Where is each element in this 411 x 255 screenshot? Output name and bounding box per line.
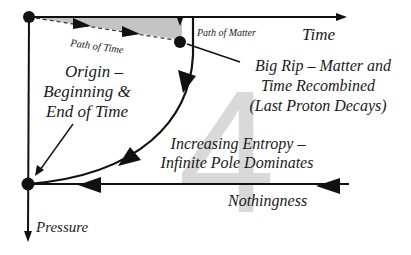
nothingness-arrow-1-icon xyxy=(78,177,101,193)
origin-point xyxy=(22,178,35,191)
cosmology-diagram: 4 Time Pressure Path of Time Path of Mat… xyxy=(0,0,411,255)
path-of-matter-label: Path of Matter xyxy=(196,27,256,38)
pressure-axis xyxy=(28,17,29,234)
origin-pointer-line xyxy=(40,124,73,170)
big-rip-label-line-2: Time Recombined xyxy=(261,77,376,94)
big-rip-point xyxy=(174,36,186,48)
path-of-time-label: Path of Time xyxy=(69,37,125,56)
big-rip-label-line-1: Big Rip – Matter and xyxy=(255,57,392,75)
pressure-axis-arrowhead-icon xyxy=(24,231,32,242)
big-rip-label-line-3: (Last Proton Decays) xyxy=(249,97,386,115)
time-axis-arrowhead-icon xyxy=(336,13,347,21)
origin-label-line-3: End of Time xyxy=(45,102,129,121)
nothingness-arrow-2-icon xyxy=(316,178,340,194)
pressure-axis-label: Pressure xyxy=(35,219,89,235)
origin-label-line-2: Beginning & xyxy=(43,82,131,101)
top-left-point xyxy=(23,11,35,23)
origin-label-line-1: Origin – xyxy=(65,62,124,81)
entropy-label-line-2: Infinite Pole Dominates xyxy=(160,154,314,172)
nothingness-label: Nothingness xyxy=(227,192,307,210)
time-axis-label: Time xyxy=(302,25,336,44)
entropy-label-line-1: Increasing Entropy – xyxy=(170,135,307,153)
